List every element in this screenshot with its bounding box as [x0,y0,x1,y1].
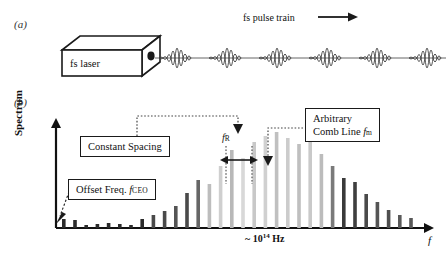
annotation-arbitrary-comb-line: Arbitrary Comb Line fm [305,108,380,142]
arbitrary-comb-subscript: m [366,128,372,137]
comb-tooth [62,219,66,228]
panel-a-graphic: fs laser [0,0,446,95]
frequency-scale-label: ~ 1014 Hz [245,232,284,244]
comb-tooth [409,218,413,228]
frequency-scale-exponent: 14 [263,232,270,240]
comb-tooth [208,184,212,228]
comb-tooth [320,154,324,228]
figure-container: (a) (b) fs laser [0,0,446,266]
constant-spacing-arrowhead [233,124,243,134]
repetition-rate-label: fR [222,132,230,143]
offset-freq-subscript: CEO [132,186,148,195]
arbitrary-comb-line1: Arbitrary [313,112,372,125]
comb-tooth [96,224,100,228]
comb-tooth [163,211,167,228]
comb-tooth [129,225,133,228]
comb-tooth [241,158,245,228]
comb-tooth [398,215,402,228]
right-arrow-icon [318,13,358,22]
arbitrary-comb-line2: Comb Line [313,126,361,137]
comb-tooth [264,136,268,228]
comb-tooth [376,202,380,228]
comb-tooth [84,225,88,228]
comb-tooth [174,206,178,228]
arbitrary-comb-line2-wrap: Comb Line fm [313,125,372,138]
offset-freq-text: Offset Freq. [76,184,127,195]
comb-tooth [196,180,200,228]
frequency-scale-unit: Hz [272,233,284,244]
frequency-scale-text: ~ 10 [245,233,263,244]
fs-pulse-train-label: fs pulse train [243,12,295,23]
repetition-rate-indicator [226,146,252,184]
comb-tooth [331,166,335,228]
annotation-offset-freq: Offset Freq. fCEO [68,179,156,200]
comb-tooth [185,193,189,228]
repetition-subscript: R [225,134,230,143]
fs-laser-label: fs laser [70,58,101,69]
comb-tooth [308,140,312,228]
comb-tooth [364,194,368,228]
comb-tooth [275,132,279,228]
comb-tooth [353,182,357,228]
comb-tooth [107,223,111,228]
comb-tooth [342,178,346,228]
comb-tooth [140,219,144,228]
comb-tooth [219,166,223,228]
comb-tooth [152,215,156,228]
comb-tooth [252,142,256,228]
comb-tooth [118,224,122,228]
constant-spacing-text: Constant Spacing [88,141,162,152]
comb-tooth [286,138,290,228]
comb-tooth [73,220,77,228]
comb-tooth [387,210,391,228]
comb-tooth [230,150,234,228]
annotation-constant-spacing: Constant Spacing [80,136,170,157]
fs-laser-box-icon [62,36,160,76]
comb-tooth [297,144,301,228]
frequency-axis-label: f [428,234,431,246]
